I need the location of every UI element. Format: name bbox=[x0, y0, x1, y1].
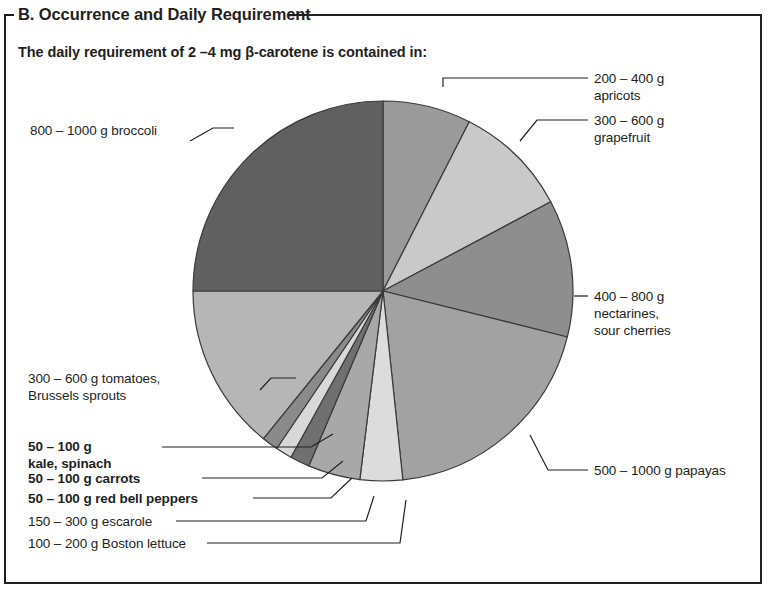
leader-grapefruit bbox=[520, 120, 588, 141]
pie-slice: 800 – 1000 g broccoli bbox=[193, 101, 383, 291]
label-carrots-line1: 50 – 100 g carrots bbox=[28, 470, 140, 487]
label-escarole: 150 – 300 g escarole bbox=[28, 513, 152, 530]
label-broccoli-line1: 800 – 1000 g broccoli bbox=[30, 122, 157, 139]
label-papayas: 500 – 1000 g papayas bbox=[594, 462, 726, 479]
label-nectarines-line2: nectarines, bbox=[594, 305, 671, 322]
label-broccoli: 800 – 1000 g broccoli bbox=[30, 122, 157, 139]
label-tomatoes: 300 – 600 g tomatoes, Brussels sprouts bbox=[28, 370, 160, 404]
label-lettuce: 100 – 200 g Boston lettuce bbox=[28, 535, 186, 552]
label-grapefruit-line2: grapefruit bbox=[594, 129, 664, 146]
label-tomatoes-line1: 300 – 600 g tomatoes, bbox=[28, 370, 160, 387]
label-escarole-line1: 150 – 300 g escarole bbox=[28, 513, 152, 530]
label-apricots: 200 – 400 g apricots bbox=[594, 70, 664, 104]
label-kale-line1: 50 – 100 g bbox=[28, 438, 112, 455]
label-apricots-line2: apricots bbox=[594, 87, 664, 104]
label-apricots-line1: 200 – 400 g bbox=[594, 70, 664, 87]
label-papayas-line1: 500 – 1000 g papayas bbox=[594, 462, 726, 479]
label-kale: 50 – 100 g kale, spinach bbox=[28, 438, 112, 472]
leader-escarole bbox=[176, 496, 374, 521]
label-lettuce-line1: 100 – 200 g Boston lettuce bbox=[28, 535, 186, 552]
leader-apricots bbox=[443, 78, 588, 87]
label-tomatoes-line2: Brussels sprouts bbox=[28, 387, 160, 404]
figure-panel: B. Occurrence and Daily Requirement The … bbox=[0, 0, 771, 605]
label-grapefruit-line1: 300 – 600 g bbox=[594, 112, 664, 129]
label-peppers: 50 – 100 g red bell peppers bbox=[28, 490, 198, 507]
leader-broccoli bbox=[190, 128, 234, 141]
label-carrots: 50 – 100 g carrots bbox=[28, 470, 140, 487]
label-nectarines: 400 – 800 g nectarines, sour cherries bbox=[594, 288, 671, 339]
label-nectarines-line3: sour cherries bbox=[594, 322, 671, 339]
leader-peppers bbox=[253, 478, 352, 498]
label-grapefruit: 300 – 600 g grapefruit bbox=[594, 112, 664, 146]
label-peppers-line1: 50 – 100 g red bell peppers bbox=[28, 490, 198, 507]
label-nectarines-line1: 400 – 800 g bbox=[594, 288, 671, 305]
leader-papayas bbox=[530, 435, 588, 470]
pie-slice-group: 200 – 400 g apricots300 – 600 g grapefru… bbox=[193, 101, 573, 481]
